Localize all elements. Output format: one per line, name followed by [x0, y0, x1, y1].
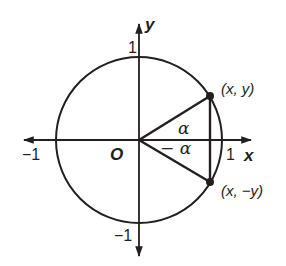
point-x-neg-y [206, 178, 214, 186]
x-axis-label: x [243, 146, 255, 165]
y-tick-pos: 1 [128, 39, 137, 56]
ray-alpha [139, 96, 210, 140]
point-label-x-neg-y: (x, −y) [221, 182, 263, 199]
origin-label: O [110, 145, 123, 164]
angle-label-alpha: α [178, 118, 190, 138]
unit-circle-diagram: y 1 −1 −1 1 x O (x, y) (x, −y) α − α [0, 0, 286, 266]
x-tick-neg: −1 [22, 146, 40, 163]
angle-label-neg-alpha: − α [160, 138, 192, 158]
point-label-x-y: (x, y) [221, 80, 254, 97]
y-tick-neg: −1 [114, 227, 132, 244]
point-x-y [206, 92, 214, 100]
y-axis-label: y [144, 15, 156, 34]
x-tick-pos: 1 [226, 146, 235, 163]
